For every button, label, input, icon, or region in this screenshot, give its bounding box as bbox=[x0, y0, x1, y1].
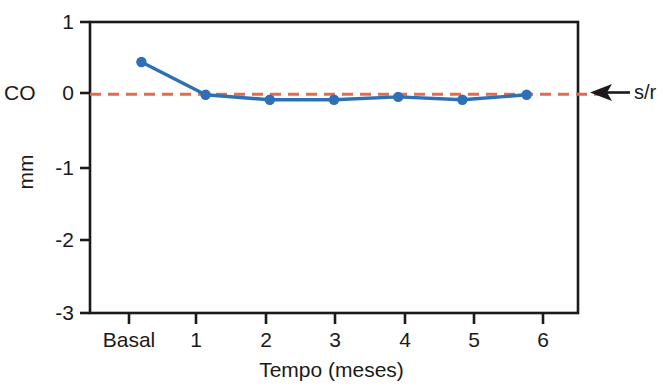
data-point bbox=[457, 95, 467, 105]
x-tick-label-6: 6 bbox=[537, 328, 549, 352]
x-tick-label-basal: Basal bbox=[103, 328, 156, 352]
y-tick-label-minus1: -1 bbox=[40, 156, 74, 180]
y-axis-ticks bbox=[80, 22, 90, 313]
y-tick-label-minus3: -3 bbox=[40, 301, 74, 325]
data-point bbox=[200, 90, 210, 100]
x-tick-label-2: 2 bbox=[260, 328, 272, 352]
x-tick-label-3: 3 bbox=[329, 328, 341, 352]
data-point bbox=[329, 95, 339, 105]
y-tick-label-minus2: -2 bbox=[40, 228, 74, 252]
co-axis-label: CO bbox=[4, 81, 36, 105]
sr-annotation-label: s/r bbox=[634, 81, 656, 104]
y-axis-label: mm bbox=[14, 142, 38, 202]
x-tick-label-4: 4 bbox=[399, 328, 411, 352]
y-tick-label-1: 1 bbox=[46, 10, 74, 34]
chart-figure: 1 0 -1 -2 -3 CO mm Basal 1 2 3 4 5 6 Tem… bbox=[0, 0, 663, 390]
plot-frame bbox=[90, 22, 578, 313]
x-axis-ticks bbox=[129, 313, 543, 324]
data-point bbox=[521, 90, 531, 100]
y-tick-label-0: 0 bbox=[46, 81, 74, 105]
sr-arrow-icon bbox=[590, 84, 630, 101]
x-tick-label-1: 1 bbox=[190, 328, 202, 352]
x-tick-label-5: 5 bbox=[468, 328, 480, 352]
data-point bbox=[265, 95, 275, 105]
data-point bbox=[393, 92, 403, 102]
data-point bbox=[136, 57, 146, 67]
x-axis-label: Tempo (meses) bbox=[0, 358, 663, 382]
